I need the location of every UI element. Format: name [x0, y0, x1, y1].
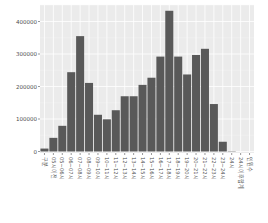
x-tick-label: 22~23시 — [211, 157, 217, 180]
x-tick-label: 05~06시 — [59, 157, 65, 180]
x-tick-label: 05시이전 — [50, 157, 58, 179]
x-tick-label: 23~24시 — [220, 157, 226, 180]
bar — [130, 96, 138, 151]
bar — [76, 36, 84, 151]
bar — [40, 149, 48, 152]
x-tick-label: 18~19시 — [175, 157, 181, 180]
x-tick-label: 09~10시 — [95, 157, 101, 180]
bar — [201, 49, 209, 152]
x-tick-label: 12~13시 — [122, 157, 128, 180]
x-tick-label: 17~18시 — [166, 157, 172, 180]
x-tick-label: 19~20시 — [184, 157, 190, 180]
bar-chart: 0100000200000300000400000 구분05시이전05~06시0… — [0, 0, 268, 223]
x-tick-label: 10~11시 — [104, 157, 110, 180]
bar — [139, 85, 147, 152]
bar — [103, 119, 111, 151]
x-tick-label: 구분 — [41, 157, 48, 167]
x-tick-label: 11~12시 — [113, 157, 119, 180]
bar — [219, 142, 227, 152]
y-tick-label: 400000 — [16, 19, 37, 25]
bar — [156, 57, 164, 152]
y-axis: 0100000200000300000400000 — [16, 19, 40, 155]
bar — [183, 74, 191, 151]
x-tick-label: 인원수 — [246, 157, 254, 172]
y-tick-label: 100000 — [16, 116, 37, 122]
x-tick-label: 21~22시 — [202, 157, 208, 180]
x-tick-label: 06~07시 — [68, 157, 74, 180]
x-tick-label: 16~17시 — [158, 157, 164, 180]
bar — [58, 126, 66, 152]
x-tick-label: 15~16시 — [149, 157, 155, 180]
bar — [192, 55, 200, 152]
x-tick-label: 24시 — [229, 157, 235, 169]
y-tick-label: 300000 — [16, 51, 37, 57]
bar — [67, 72, 75, 151]
bar — [147, 78, 155, 152]
x-axis: 구분05시이전05~06시06~07시07~08시08~09시09~10시10~… — [41, 153, 254, 189]
bar — [49, 138, 57, 152]
bar — [94, 115, 102, 152]
y-tick-label: 0 — [34, 149, 38, 155]
bar — [165, 11, 173, 152]
x-tick-label: 20~21시 — [193, 157, 199, 180]
bar — [174, 57, 182, 152]
x-tick-label: 14~15시 — [140, 157, 146, 180]
x-tick-label: 24시이후합계 — [237, 157, 245, 189]
y-tick-label: 200000 — [16, 84, 37, 90]
x-tick-label: 08~09시 — [86, 157, 92, 180]
bar — [210, 104, 218, 151]
bar — [112, 110, 120, 151]
bar — [121, 96, 129, 151]
x-tick-label: 07~08시 — [77, 157, 83, 180]
bar — [85, 83, 93, 152]
x-tick-label: 13~14시 — [131, 157, 137, 180]
